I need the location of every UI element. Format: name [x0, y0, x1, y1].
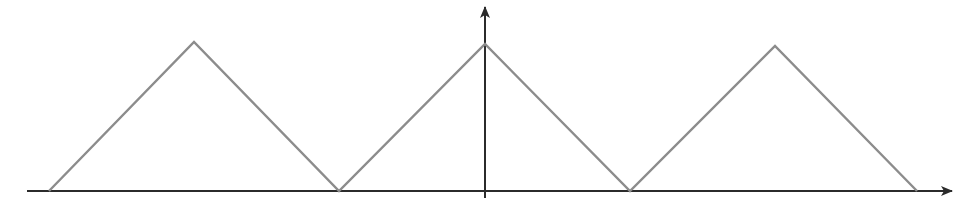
triangle-wave-line [49, 42, 917, 191]
chart-canvas [0, 0, 974, 217]
